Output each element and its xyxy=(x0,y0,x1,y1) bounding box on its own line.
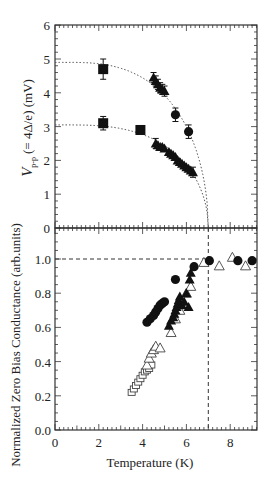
data-point-circle xyxy=(184,127,193,136)
x-tick-label: 0 xyxy=(52,435,59,450)
bottom-panel-plot: 0.00.20.40.60.81.002468 xyxy=(35,228,257,450)
y-tick-label: 0.4 xyxy=(35,355,52,370)
data-point-circle xyxy=(189,262,198,271)
data-point-square xyxy=(98,118,108,128)
data-point-circle xyxy=(233,256,242,265)
x-axis-label: Temperature (K) xyxy=(107,455,194,470)
top-y-axis-label: Vp-p(= 4Δ/e) (mV) xyxy=(19,79,38,177)
y-tick-label: 0.6 xyxy=(35,320,52,335)
x-tick-label: 4 xyxy=(139,435,146,450)
y-tick-label: 1.0 xyxy=(35,252,51,267)
y-tick-label: 4 xyxy=(44,86,51,101)
data-point-open-triangle xyxy=(214,261,224,270)
plot-frame xyxy=(55,25,257,228)
y-tick-label: 2 xyxy=(44,153,51,168)
fit-curve-dotted xyxy=(55,125,208,228)
data-point-circle xyxy=(171,275,180,284)
top-panel-plot: 0123456 xyxy=(44,18,258,236)
y-tick-label: 6 xyxy=(44,18,51,33)
y-tick-label: 0 xyxy=(44,221,51,236)
data-point-square xyxy=(98,64,108,74)
x-tick-label: 8 xyxy=(227,435,234,450)
y-tick-label: 1 xyxy=(44,187,51,202)
data-point-circle xyxy=(205,256,214,265)
y-tick-label: 5 xyxy=(44,52,51,67)
bottom-y-axis-label: Normalized Zero Bias Conductance (arb.un… xyxy=(8,223,23,467)
y-tick-label: 0.2 xyxy=(35,389,51,404)
fit-curve-dotted xyxy=(55,62,208,228)
x-tick-label: 2 xyxy=(96,435,103,450)
data-point-square xyxy=(135,125,145,135)
data-point-circle xyxy=(160,297,169,306)
y-tick-label: 0.8 xyxy=(35,286,51,301)
y-tick-label: 3 xyxy=(44,120,51,135)
y-tick-label: 0.0 xyxy=(35,423,51,438)
data-point-circle xyxy=(248,256,257,265)
figure: 0123456 0.00.20.40.60.81.002468 Vp-p(= 4… xyxy=(0,0,269,500)
data-point-circle xyxy=(171,110,180,119)
plot-frame xyxy=(55,228,257,430)
x-tick-label: 6 xyxy=(183,435,190,450)
